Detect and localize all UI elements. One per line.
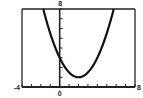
- origin-label: 0: [58, 90, 62, 97]
- x-max-label: 8: [137, 84, 141, 91]
- parabola-curve: [43, 9, 113, 77]
- axis-ticks: [22, 9, 135, 87]
- graph: 8 -4 8 0: [0, 0, 143, 98]
- plot-frame: [22, 9, 135, 87]
- x-min-label: -4: [14, 84, 20, 91]
- y-max-label: 8: [58, 0, 62, 7]
